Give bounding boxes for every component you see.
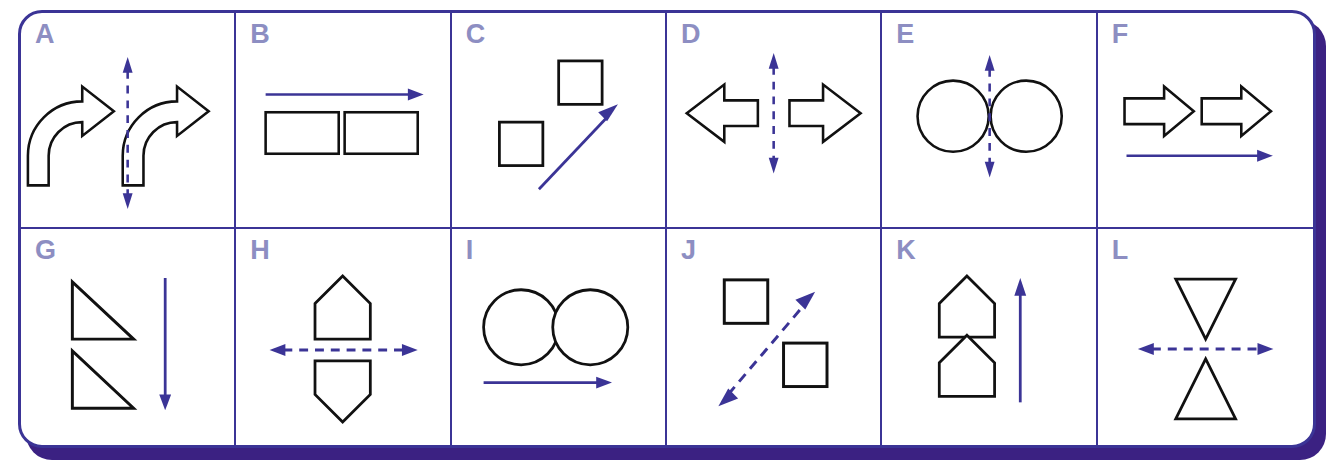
pentagon-bottom-K	[940, 335, 995, 396]
cell-A[interactable]: A	[21, 13, 236, 229]
horizontal-dashed-double-arrow-L	[1138, 343, 1274, 355]
figure-B	[236, 39, 449, 227]
horizontal-dashed-double-arrow-H	[270, 344, 418, 356]
figure-E	[882, 39, 1095, 227]
cell-F[interactable]: F	[1098, 13, 1313, 229]
cell-K[interactable]: K	[882, 229, 1097, 445]
figure-A	[21, 39, 234, 227]
square-lower-left-C	[499, 122, 542, 165]
rectangle-left-B	[266, 112, 339, 153]
cell-C[interactable]: C	[452, 13, 667, 229]
figure-L	[1098, 255, 1313, 445]
figure-I	[452, 255, 665, 445]
cell-E[interactable]: E	[882, 13, 1097, 229]
circle-right-I	[552, 290, 627, 365]
figure-K	[882, 255, 1095, 445]
circle-left-E	[918, 81, 989, 152]
figure-D	[667, 39, 880, 227]
cell-I[interactable]: I	[452, 229, 667, 445]
cell-H[interactable]: H	[236, 229, 451, 445]
horizontal-solid-arrow-right-F	[1126, 150, 1272, 162]
figure-J	[667, 255, 880, 445]
cell-G[interactable]: G	[21, 229, 236, 445]
cell-B[interactable]: B	[236, 13, 451, 229]
pentagon-top-K	[940, 276, 995, 337]
rectangle-right-B	[345, 112, 418, 153]
figure-G	[21, 255, 234, 445]
square-upper-right-C	[558, 61, 601, 104]
triangle-up-L	[1175, 359, 1235, 419]
pentagon-up-H	[315, 276, 370, 339]
left-curved-block-arrow	[28, 87, 114, 186]
pentagon-down-H	[315, 361, 370, 422]
vertical-dashed-double-arrow-D	[769, 53, 779, 173]
square-lower-right-J	[784, 343, 827, 386]
triangle-down-L	[1175, 279, 1235, 339]
right-block-arrow-2-F	[1201, 86, 1270, 135]
right-curved-block-arrow	[123, 87, 209, 186]
right-block-arrow-1-F	[1124, 86, 1193, 135]
right-block-arrow-D	[789, 85, 860, 142]
cell-grid: A B	[21, 13, 1313, 445]
vertical-solid-arrow-up-K	[1015, 278, 1027, 402]
circle-right-E	[991, 81, 1062, 152]
figure-H	[236, 255, 449, 445]
figure-panel: A B	[0, 0, 1331, 466]
horizontal-solid-arrow-right-I	[483, 377, 611, 389]
triangle-bottom-G	[72, 351, 133, 408]
circle-left-I	[483, 290, 558, 365]
horizontal-solid-arrow-right-B	[266, 89, 424, 101]
square-upper-left-J	[724, 280, 767, 323]
left-block-arrow-D	[687, 85, 758, 142]
diagonal-solid-arrow-up-right-C	[539, 104, 618, 189]
triangle-top-G	[72, 282, 133, 339]
cell-D[interactable]: D	[667, 13, 882, 229]
figure-C	[452, 39, 665, 227]
panel-card: A B	[18, 10, 1316, 448]
cell-L[interactable]: L	[1098, 229, 1313, 445]
vertical-solid-arrow-down-G	[159, 278, 171, 410]
cell-J[interactable]: J	[667, 229, 882, 445]
figure-F	[1098, 39, 1313, 227]
